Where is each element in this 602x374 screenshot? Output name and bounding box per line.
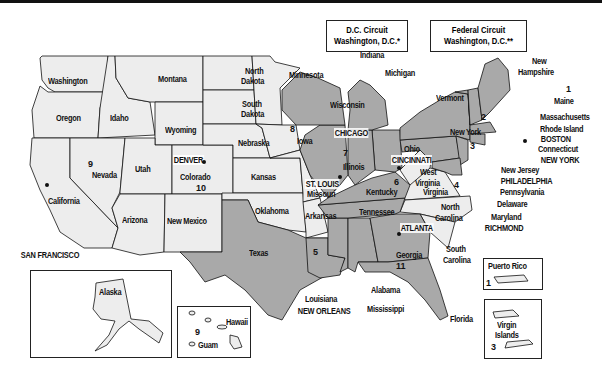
label-south-carolina-1: South	[446, 244, 466, 254]
city-boston: BOSTON	[540, 134, 572, 144]
city-st-louis: ST. LOUIS	[305, 179, 340, 189]
label-guam: Guam	[198, 340, 218, 350]
label-alabama: Alabama	[371, 285, 400, 295]
label-north-dakota-2: Dakota	[241, 76, 264, 86]
city-new-orleans: NEW ORLEANS	[297, 306, 351, 316]
label-new-mexico: New Mexico	[167, 216, 207, 226]
label-wisconsin: Wisconsin	[330, 100, 365, 110]
city-new-york: NEW YORK	[540, 155, 580, 165]
label-south-carolina-2: Carolina	[443, 255, 471, 265]
city-dot-denver	[202, 160, 206, 164]
city-philadelphia: PHILADELPHIA	[500, 176, 553, 186]
label-indiana: Indiana	[360, 50, 384, 60]
circuit-3: 3	[470, 141, 475, 151]
alaska-shape	[31, 271, 171, 357]
label-rhode-island: Rhode Island	[540, 124, 583, 134]
dc-circuit-box: D.C. Circuit Washington, D.C.*	[326, 20, 408, 52]
city-dot-san-francisco	[45, 183, 49, 187]
label-south-dakota-2: Dakota	[241, 109, 264, 119]
label-connecticut: Connecticut	[538, 144, 578, 154]
label-new-jersey: New Jersey	[501, 165, 539, 175]
city-denver: DENVER	[173, 155, 204, 165]
circuit-3-virgin-islands: 3	[491, 342, 496, 352]
label-hawaii: Hawaii	[226, 317, 248, 327]
circuit-9-hawaii: 9	[195, 327, 200, 337]
label-virgin-islands-1: Virgin	[497, 320, 516, 330]
circuit-8: 8	[290, 124, 295, 134]
hawaii-guam-inset: Hawaii 9 Guam	[177, 306, 251, 358]
label-delaware: Delaware	[497, 199, 527, 209]
label-minnesota: Minnesota	[289, 70, 323, 80]
label-mississippi: Mississippi	[367, 304, 404, 314]
city-chicago: CHICAGO	[334, 128, 369, 138]
state-indiana	[348, 130, 375, 185]
city-atlanta: ATLANTA	[400, 223, 434, 233]
city-richmond: RICHMOND	[484, 223, 524, 233]
label-north-carolina-1: North	[441, 202, 459, 212]
puerto-rico-inset: Puerto Rico 1	[483, 258, 543, 290]
label-florida: Florida	[450, 314, 473, 324]
label-wyoming: Wyoming	[165, 125, 196, 135]
label-arizona: Arizona	[122, 215, 147, 225]
state-washington	[40, 56, 108, 92]
circuit-4: 4	[454, 180, 459, 190]
label-texas: Texas	[249, 248, 268, 258]
circuit-9: 9	[88, 159, 93, 169]
label-washington: Washington	[48, 76, 88, 86]
dc-circuit-title: D.C. Circuit	[333, 25, 401, 36]
city-dot-st-louis	[338, 175, 342, 179]
label-new-hampshire-2: Hampshire	[518, 67, 554, 77]
label-kentucky: Kentucky	[366, 187, 397, 197]
state-wyoming	[155, 102, 203, 145]
circuit-2: 2	[481, 112, 486, 122]
label-california: California	[48, 196, 80, 206]
label-michigan: Michigan	[385, 68, 415, 78]
label-utah: Utah	[135, 164, 150, 174]
label-west-virginia-1: West	[420, 167, 437, 177]
city-cincinnati: CINCINNATI	[391, 155, 432, 165]
federal-circuit-location: Washington, D.C.**	[438, 36, 519, 47]
label-maine: Maine	[554, 96, 574, 106]
label-oklahoma: Oklahoma	[255, 206, 289, 216]
state-maine	[478, 58, 510, 120]
label-illinois: Illinois	[343, 162, 364, 172]
city-dot-atlanta	[397, 232, 401, 236]
label-west-virginia-2: Virginia	[415, 178, 440, 188]
state-oregon	[32, 86, 106, 138]
city-dot-boston	[523, 139, 527, 143]
label-north-dakota-1: North	[245, 66, 263, 76]
federal-circuit-box: Federal Circuit Washington, D.C.**	[430, 20, 527, 52]
label-arkansas: Arkansas	[305, 211, 336, 221]
federal-circuit-title: Federal Circuit	[438, 25, 519, 36]
label-tennessee: Tennessee	[359, 207, 394, 217]
label-nebraska: Nebraska	[238, 138, 269, 148]
label-vermont: Vermont	[436, 93, 464, 103]
circuit-10: 10	[196, 183, 206, 193]
circuit-7: 7	[343, 148, 348, 158]
label-virginia: Virginia	[423, 187, 448, 197]
label-oregon: Oregon	[56, 113, 81, 123]
label-nevada: Nevada	[92, 170, 117, 180]
circuit-1-puerto-rico: 1	[486, 278, 491, 288]
label-idaho: Idaho	[110, 113, 128, 123]
label-puerto-rico: Puerto Rico	[488, 261, 527, 271]
label-missouri: Missouri	[307, 189, 335, 199]
label-new-hampshire-1: New	[532, 56, 546, 66]
label-iowa: Iowa	[297, 136, 312, 146]
label-kansas: Kansas	[251, 172, 276, 182]
label-south-dakota-1: South	[242, 99, 262, 109]
label-colorado: Colorado	[180, 172, 210, 182]
label-georgia: Georgia	[396, 250, 422, 260]
circuit-11: 11	[396, 261, 406, 271]
label-louisiana: Louisiana	[305, 294, 337, 304]
label-ohio: Ohio	[404, 144, 420, 154]
label-maryland: Maryland	[491, 212, 521, 222]
label-pennsylvania: Pennsylvania	[500, 187, 544, 197]
label-new-york: New York	[450, 127, 481, 137]
label-montana: Montana	[158, 74, 187, 84]
circuit-6: 6	[394, 177, 399, 187]
virgin-islands-inset: Virgin Islands 3	[484, 299, 542, 359]
label-north-carolina-2: Carolina	[435, 213, 463, 223]
alaska-inset: Alaska	[30, 270, 172, 358]
dc-circuit-location: Washington, D.C.*	[333, 36, 401, 47]
